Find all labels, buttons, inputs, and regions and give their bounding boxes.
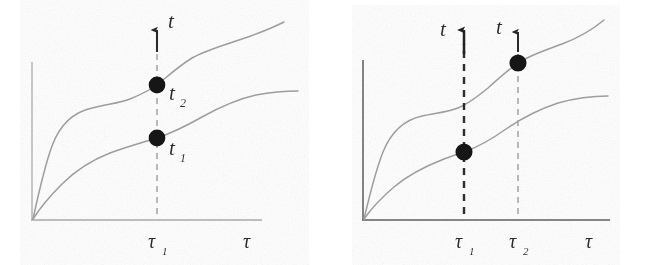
- right-axis-label-tau: τ: [585, 230, 593, 252]
- right-tick-tau1-label: τ: [455, 230, 463, 252]
- diagram-svg: t t 2 t 1 τ 1 τ t t τ 1 τ 2: [0, 0, 650, 265]
- left-tick-tau1-label: τ: [148, 230, 156, 252]
- left-point-t2-dot: [149, 77, 166, 94]
- figure-container: t t 2 t 1 τ 1 τ t t τ 1 τ 2: [0, 0, 650, 265]
- right-tick-tau2-label: τ: [509, 230, 517, 252]
- left-point-t1-dot: [149, 130, 166, 147]
- left-tick-tau1-subscript: 1: [162, 245, 168, 257]
- background: [0, 0, 650, 265]
- right-tick-tau2-subscript: 2: [523, 245, 529, 257]
- left-axis-label-tau: τ: [243, 230, 251, 252]
- left-point-t2-subscript: 2: [180, 96, 186, 110]
- right-point-lower-tau1-dot: [455, 143, 472, 160]
- right-tick-tau1-subscript: 1: [469, 245, 475, 257]
- left-point-t1-subscript: 1: [180, 151, 186, 165]
- right-point-upper-tau2-dot: [509, 54, 526, 71]
